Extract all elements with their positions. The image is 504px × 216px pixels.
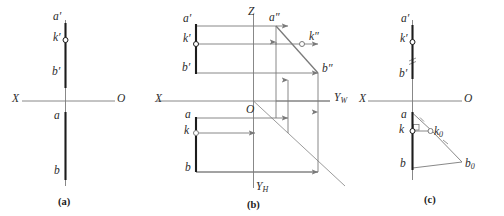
- label-axis-yw-panel-b: YW: [334, 92, 347, 105]
- label-axis-x-panel-b: X: [155, 93, 162, 105]
- label-axis-x-panel-c: X: [359, 93, 366, 105]
- miter-line-45: [254, 101, 346, 186]
- label-axis-yh-panel-b: YH: [256, 181, 268, 194]
- caption-panel-b: (b): [247, 199, 260, 210]
- label-b-panel-a: b: [54, 165, 60, 177]
- panel-c-geometry: [368, 20, 462, 180]
- label-b-zero-sub: 0: [471, 162, 475, 171]
- label-axis-yh-sub: H: [262, 185, 268, 194]
- label-a-double-prime-panel-b: a″: [269, 12, 280, 24]
- point-k-prime-b: [194, 42, 199, 47]
- label-b-panel-b: b: [185, 162, 191, 174]
- label-origin-panel-b: O: [246, 104, 254, 116]
- label-k-prime-panel-b: k′: [183, 33, 191, 45]
- tri-a-to-k0: [413, 113, 433, 131]
- figure-projection-three-panels: a′ k′ b′ a b X O (a) a′ k′ b′ a k b a″ k…: [0, 0, 504, 216]
- caption-panel-a: (a): [58, 196, 70, 207]
- label-b-panel-c: b: [400, 158, 406, 170]
- label-k-zero-sub: 0: [439, 130, 443, 139]
- label-axis-x-panel-a: X: [12, 93, 19, 105]
- label-k-double-prime-panel-b: k″: [309, 31, 319, 43]
- panel-a-geometry: [22, 20, 115, 186]
- label-k-panel-c: k: [399, 124, 404, 136]
- label-k-zero-panel-c: k0: [434, 126, 443, 139]
- label-b-prime-panel-b: b′: [182, 62, 190, 74]
- point-k-prime-c: [410, 40, 415, 45]
- label-axis-o-panel-c: O: [464, 93, 472, 105]
- label-a-panel-c: a: [401, 109, 407, 121]
- label-k-prime-panel-c: k′: [400, 33, 408, 45]
- tri-b-to-b0: [413, 162, 463, 168]
- label-k-panel-b: k: [184, 125, 189, 137]
- label-axis-z-panel-b: Z: [248, 6, 254, 18]
- label-a-panel-b: a: [185, 109, 191, 121]
- label-k-prime-panel-a: k′: [53, 32, 61, 44]
- label-a-prime-panel-c: a′: [401, 13, 409, 25]
- label-b-double-prime-panel-b: b″: [322, 63, 333, 75]
- label-b-zero-panel-c: b0: [465, 158, 475, 171]
- label-b-prime-panel-a: b′: [52, 66, 60, 78]
- caption-panel-c: (c): [424, 194, 436, 205]
- label-b-prime-panel-c: b′: [399, 68, 407, 80]
- point-k-c: [410, 129, 415, 134]
- label-axis-o-panel-a: O: [117, 93, 125, 105]
- point-k-h-b: [194, 131, 199, 136]
- label-a-prime-panel-a: a′: [53, 11, 61, 23]
- label-axis-yw-sub: W: [340, 96, 347, 105]
- point-k-prime-a: [63, 38, 68, 43]
- label-a-panel-a: a: [54, 110, 60, 122]
- point-k-zero-c: [428, 129, 433, 134]
- label-a-prime-panel-b: a′: [183, 13, 191, 25]
- point-k-double-prime-b: [300, 42, 305, 47]
